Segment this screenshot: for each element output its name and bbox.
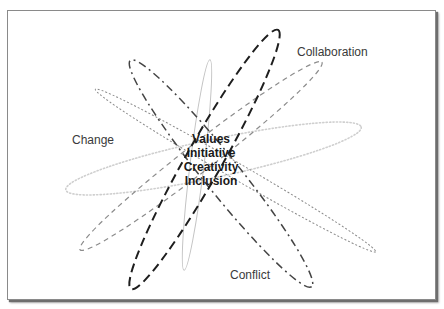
core-term-values: Values: [192, 132, 230, 146]
label-change: Change: [72, 133, 114, 147]
orbit-diagram: Collaboration Change Conflict Values Ini…: [0, 0, 444, 309]
core-term-creativity: Creativity: [184, 160, 239, 174]
core-term-initiative: Initiative: [187, 146, 236, 160]
core-term-inclusion: Inclusion: [185, 174, 238, 188]
label-conflict: Conflict: [230, 268, 271, 282]
label-collaboration: Collaboration: [297, 45, 368, 59]
